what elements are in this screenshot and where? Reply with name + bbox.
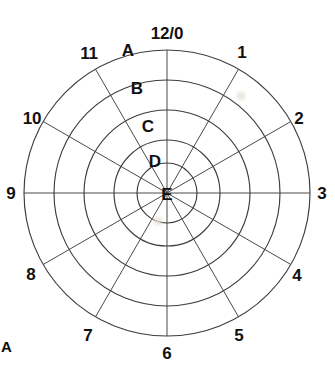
ring-label-c: C [142, 118, 154, 135]
panel-label: A [1, 339, 12, 354]
spoke-hour-8 [43, 193, 167, 265]
scan-smudge [237, 92, 246, 101]
clock-label-0: 12/0 [151, 25, 183, 42]
spoke-hour-5 [167, 193, 239, 317]
clock-label-1: 1 [237, 44, 246, 61]
ring-label-a: A [122, 42, 134, 59]
clock-label-11: 11 [80, 45, 98, 62]
scan-smudge [154, 217, 163, 226]
clock-label-3: 3 [317, 185, 326, 202]
spoke-hour-2 [167, 122, 291, 194]
spoke-hour-7 [96, 193, 168, 317]
ring-label-e: E [161, 186, 172, 203]
clock-label-8: 8 [26, 266, 35, 283]
ring-label-d: D [149, 153, 161, 170]
clock-label-6: 6 [162, 345, 171, 362]
clock-label-4: 4 [292, 267, 301, 284]
clock-label-5: 5 [234, 327, 243, 344]
polar-grid [0, 0, 335, 365]
polar-clock-figure: 12/01234567891011 ABCDE A [0, 0, 335, 365]
clock-label-2: 2 [294, 110, 303, 127]
clock-label-10: 10 [23, 110, 42, 127]
clock-label-7: 7 [83, 327, 92, 344]
spoke-hour-1 [167, 69, 239, 193]
ring-label-b: B [131, 80, 143, 97]
clock-label-9: 9 [6, 185, 15, 202]
spoke-hour-4 [167, 193, 291, 265]
